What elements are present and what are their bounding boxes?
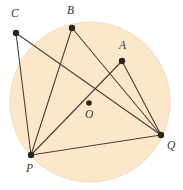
geometry-figure: CBAQPO: [0, 0, 183, 190]
point-label-q: Q: [167, 139, 176, 151]
point-label-c: C: [11, 7, 19, 19]
point-dot-b: [69, 25, 75, 31]
point-label-a: A: [118, 39, 127, 51]
point-dot-c: [13, 30, 19, 36]
point-dot-p: [28, 152, 34, 158]
point-dot-q: [158, 132, 164, 138]
point-label-o: O: [85, 108, 94, 120]
point-dot-o: [86, 100, 92, 106]
geometry-canvas: CBAQPO: [0, 0, 183, 190]
point-label-p: P: [25, 162, 33, 174]
point-dot-a: [119, 58, 125, 64]
point-label-b: B: [67, 4, 74, 16]
